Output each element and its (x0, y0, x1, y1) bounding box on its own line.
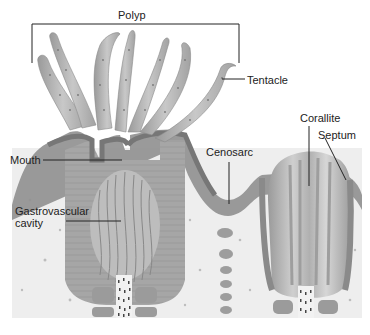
label-corallite: Corallite (300, 112, 340, 124)
label-septum: Septum (318, 129, 356, 141)
diagram-canvas (0, 0, 370, 335)
coral-diagram: Polyp Tentacle Corallite Septum Mouth Ce… (0, 0, 370, 335)
label-polyp: Polyp (118, 9, 146, 21)
tentacles (38, 31, 236, 143)
label-mouth: Mouth (10, 154, 41, 166)
label-gastrovascular: Gastrovascular (15, 205, 89, 217)
label-cenosarc: Cenosarc (206, 146, 253, 158)
label-tentacle: Tentacle (247, 74, 288, 86)
tentacle-4 (115, 31, 135, 133)
label-cavity: cavity (15, 217, 43, 229)
